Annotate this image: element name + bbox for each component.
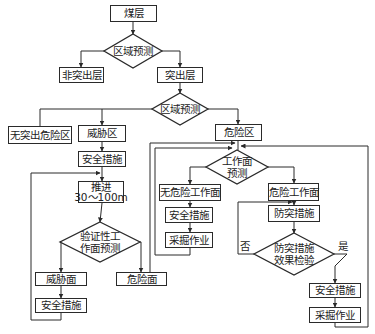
node-label: 非突出层 xyxy=(62,70,102,81)
node-danger-face: 危险面 xyxy=(116,272,167,286)
node-label: 采掘作业 xyxy=(315,310,355,321)
diamond-text-line1: 工作面 xyxy=(222,155,252,167)
node-label: 突出层 xyxy=(165,70,195,81)
node-no-danger-face: 无危险工作面 xyxy=(159,184,221,201)
node-label: 安全措施 xyxy=(315,285,355,296)
node-safety-measures-2: 安全措施 xyxy=(35,298,87,313)
node-mining-2: 采掘作业 xyxy=(309,307,361,323)
node-no-outburst-danger-zone: 无突出危险区 xyxy=(8,126,72,144)
node-label: 煤层 xyxy=(124,8,144,19)
node-label: 安全措施 xyxy=(169,210,209,221)
node-danger-working-face: 危险工作面 xyxy=(268,183,319,201)
node-advance: 推进 30～100m xyxy=(78,181,124,203)
diamond-label-effect-check: 防突措施 效果检验 xyxy=(254,233,334,275)
diamond-label-verification: 验证性工 作面预测 xyxy=(60,222,140,262)
node-outburst-prevention: 防突措施 xyxy=(268,205,320,222)
diamond-text-line2: 预测 xyxy=(227,167,247,179)
diamond-text-line1: 验证性工 xyxy=(80,230,120,242)
node-coal-seam: 煤层 xyxy=(110,5,157,22)
diamond-text-line2: 作面预测 xyxy=(80,242,120,254)
node-label: 无突出危险区 xyxy=(10,130,70,141)
edge-label-no: 否 xyxy=(240,238,250,253)
node-safety-measures-1: 安全措施 xyxy=(78,151,126,167)
node-threat-zone: 威胁区 xyxy=(78,125,126,142)
node-outburst-seam: 突出层 xyxy=(157,67,203,83)
node-danger-zone: 危险区 xyxy=(215,124,262,141)
node-label: 威胁区 xyxy=(87,128,117,139)
node-mining-1: 采掘作业 xyxy=(165,232,213,248)
node-label: 防突措施 xyxy=(274,208,314,219)
node-safety-measures-3: 安全措施 xyxy=(165,207,213,223)
diamond-label-regional-prediction-1: 区域预测 xyxy=(104,34,162,68)
node-label: 危险区 xyxy=(224,127,254,138)
node-label: 安全措施 xyxy=(82,154,122,165)
diamond-text-line2: 效果检验 xyxy=(274,254,314,266)
diamond-label-face-prediction: 工作面 预测 xyxy=(206,150,268,184)
node-non-outburst-seam: 非突出层 xyxy=(59,67,104,83)
node-label: 威胁面 xyxy=(46,274,76,285)
diamond-text: 区域预测 xyxy=(160,103,200,115)
node-label: 无危险工作面 xyxy=(160,187,220,198)
diamond-text-line1: 防突措施 xyxy=(274,242,314,254)
node-label: 危险工作面 xyxy=(269,187,319,198)
node-label-line2: 30～100m xyxy=(74,192,128,202)
node-label: 安全措施 xyxy=(41,300,81,311)
node-safety-measures-4: 安全措施 xyxy=(309,283,361,298)
flowchart-canvas: 煤层 非突出层 突出层 无突出危险区 威胁区 危险区 安全措施 推进 30～10… xyxy=(0,0,375,334)
diamond-label-regional-prediction-2: 区域预测 xyxy=(152,93,208,125)
edge-label-yes: 是 xyxy=(338,238,348,253)
node-label: 危险面 xyxy=(127,274,157,285)
node-threat-face: 威胁面 xyxy=(35,272,87,286)
diamond-text: 区域预测 xyxy=(113,45,153,57)
node-label: 采掘作业 xyxy=(169,235,209,246)
